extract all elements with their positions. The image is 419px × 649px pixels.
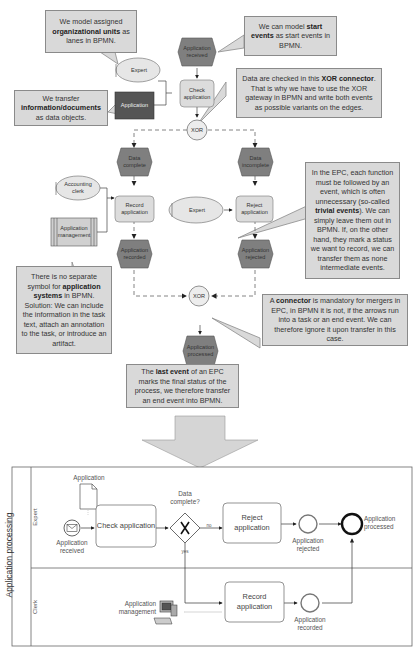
function-record-application-label: Record application [115, 196, 154, 222]
message-start-event-icon [64, 520, 80, 536]
task-reject-application[interactable]: Reject application [223, 503, 281, 543]
function-check-application-label: Check application [180, 80, 214, 107]
gateway-no-label: no [203, 523, 215, 529]
event-application-received-label: Application received [180, 38, 214, 66]
application-system-label: Application management [58, 218, 90, 246]
xor-merge-label: XOR [189, 290, 209, 302]
end-event-icon [342, 514, 362, 534]
event-application-processed-label: Application processed [185, 336, 216, 366]
gateway-yes-label: yes [179, 549, 191, 555]
callout-xor-connector: Data are checked in this XOR connector. … [236, 68, 382, 118]
pool-label: Application processing [4, 505, 16, 605]
gateway-question-label: Data complete? [165, 490, 205, 507]
end-event-label: Application processed [364, 515, 406, 532]
intermediate-event-rejected-icon [299, 515, 317, 533]
lane-clerk-label: Clerk [32, 592, 42, 622]
intermediate-event-rejected-label: Application rejected [287, 537, 329, 554]
callout-last-event: The last event of an EPC marks the final… [126, 364, 239, 408]
callout-app-systems: There is no separate symbol for applicat… [16, 266, 112, 354]
lane-expert-label: Expert [32, 502, 42, 532]
task-check-application[interactable]: Check application [96, 505, 156, 547]
data-object-label: Application [66, 474, 112, 482]
intermediate-event-recorded-label: Application recorded [289, 616, 331, 633]
callout-org-units: We model assigned organizational units a… [45, 10, 137, 53]
function-reject-application-label: Reject application [236, 196, 273, 222]
event-data-complete-label: Data complete [119, 148, 150, 176]
intermediate-event-recorded-icon [301, 594, 319, 612]
org-accounting-clerk-label: Accounting clerk [59, 177, 97, 199]
callout-start-events: We can model start events as start event… [244, 16, 337, 56]
org-expert-top-label: Expert [119, 59, 159, 81]
system-annotation-label: Application management [110, 600, 156, 617]
org-expert-mid-label: Expert [174, 200, 220, 220]
xor-split-label: XOR [187, 124, 207, 136]
event-data-incomplete-label: Data incomplete [240, 148, 271, 176]
transform-arrow [142, 416, 258, 468]
callout-trivial-events: In the EPC, each function must be follow… [305, 162, 400, 279]
info-object-application-label: Application [115, 92, 154, 119]
callout-info-objects: We transfer information/documents as dat… [14, 90, 108, 126]
task-record-application[interactable]: Record application [225, 582, 284, 622]
event-application-rejected-label: Application rejected [240, 240, 271, 268]
event-application-recorded-label: Application recorded [119, 240, 150, 268]
callout-merge-connector: A connector is mandatory for mergers in … [262, 294, 408, 346]
start-event-label: Application received [50, 539, 94, 556]
